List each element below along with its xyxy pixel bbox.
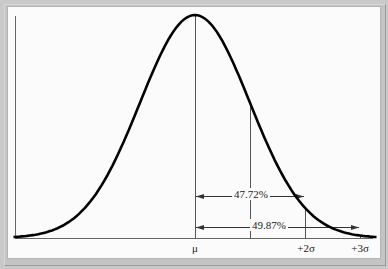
annotation-49-87: 49.87% <box>250 219 288 231</box>
x-tick-plus3sigma: +3σ <box>351 242 369 254</box>
x-tick-plus2sigma: +2σ <box>297 242 315 254</box>
normal-distribution-chart <box>0 0 388 269</box>
annotation-47-72: 47.72% <box>232 188 270 200</box>
sigma-marker-lines <box>196 15 361 238</box>
arrowhead-icon <box>351 225 359 230</box>
x-tick-mu: μ <box>192 242 198 254</box>
arrowhead-icon <box>196 194 204 199</box>
arrowhead-icon <box>196 225 204 230</box>
